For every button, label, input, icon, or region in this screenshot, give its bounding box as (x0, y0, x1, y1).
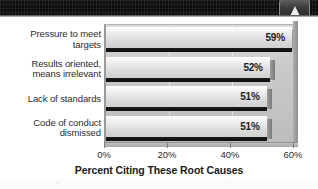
bar[interactable]: 51% (106, 116, 267, 137)
bar-value-label: 51% (240, 121, 259, 132)
bar-depth-face (292, 30, 297, 50)
bar[interactable]: 51% (106, 86, 267, 107)
x-tick-label: 60% (276, 149, 310, 160)
bar-value-label: 51% (240, 91, 259, 102)
bar-row: 59% (106, 27, 293, 52)
category-label-line: dismissed (2, 128, 101, 139)
x-axis (104, 142, 298, 147)
x-tick-label: 20% (150, 149, 184, 160)
category-label-line: Lack of standards (2, 94, 101, 105)
bar-value-label: 52% (243, 62, 262, 73)
category-label: Pressure to meettargets (2, 29, 101, 50)
bar-row: 52% (106, 57, 293, 82)
plot-area: 59%52%51%51% (104, 24, 293, 142)
x-tick-labels: 0%20%40%60% (0, 149, 318, 163)
bar-depth-face (267, 89, 272, 109)
category-label-line: means irrelevant (2, 69, 101, 80)
category-axis-labels: Pressure to meettargetsResults oriented,… (2, 24, 103, 142)
gridline (295, 25, 296, 142)
x-axis-title: Percent Citing These Root Causes (0, 164, 318, 176)
bar-chart-figure: Pressure to meettargetsResults oriented,… (0, 17, 318, 189)
header-band (0, 0, 318, 17)
bar-value-label: 59% (265, 32, 284, 43)
bar[interactable]: 59% (106, 27, 292, 48)
x-tick (167, 143, 168, 148)
bar-row: 51% (106, 116, 293, 141)
bar-depth-face (270, 60, 275, 80)
x-tick (104, 143, 105, 148)
page-margin (0, 179, 318, 189)
x-tick (230, 143, 231, 148)
x-tick (293, 143, 294, 148)
bar-row: 51% (106, 86, 293, 111)
x-tick-label: 40% (213, 149, 247, 160)
category-label: Results oriented,means irrelevant (2, 59, 101, 80)
category-label-line: targets (2, 40, 101, 51)
bar-depth-face (267, 119, 272, 139)
category-label: Code of conductdismissed (2, 118, 101, 139)
category-label: Lack of standards (2, 94, 101, 105)
bar[interactable]: 52% (106, 57, 270, 78)
x-tick-label: 0% (87, 149, 121, 160)
